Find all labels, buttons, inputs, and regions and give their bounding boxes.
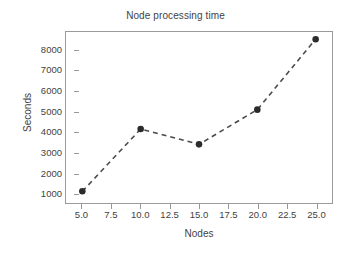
x-tick-mark	[170, 204, 171, 209]
x-tick-mark	[258, 204, 259, 209]
x-tick-label: 25.0	[297, 209, 337, 220]
x-axis-label: Nodes	[65, 228, 333, 239]
y-axis-label: Seconds	[22, 68, 33, 158]
x-tick-mark	[199, 204, 200, 209]
x-tick-mark	[317, 204, 318, 209]
x-tick-mark	[287, 204, 288, 209]
x-axis-ticks: 5.07.510.012.515.017.520.022.525.0	[0, 0, 351, 253]
x-tick-mark	[228, 204, 229, 209]
chart-figure: Node processing time 1000200030004000500…	[0, 0, 351, 253]
x-tick-mark	[111, 204, 112, 209]
x-tick-mark	[81, 204, 82, 209]
x-tick-mark	[140, 204, 141, 209]
